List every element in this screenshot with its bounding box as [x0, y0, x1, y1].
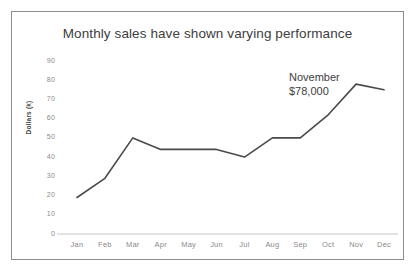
- line-chart-svg: [12, 12, 405, 261]
- november-annotation: November $78,000: [289, 70, 340, 98]
- plot-area: Dollars (k) 0102030405060708090 JanFebMa…: [12, 12, 405, 261]
- annotation-value-label: $78,000: [289, 84, 340, 98]
- sales-line-series: [77, 84, 384, 197]
- chart-card: Monthly sales have shown varying perform…: [11, 11, 404, 260]
- annotation-month-label: November: [289, 70, 340, 84]
